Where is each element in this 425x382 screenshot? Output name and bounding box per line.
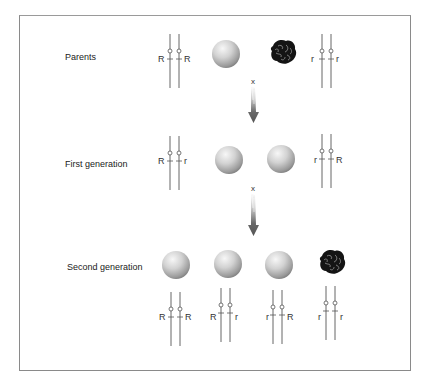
svg-text:r: r xyxy=(314,155,317,165)
f2-chromosomes-rr: r r xyxy=(318,286,343,340)
svg-text:R: R xyxy=(210,312,217,322)
svg-text:R: R xyxy=(158,156,165,166)
svg-text:r: r xyxy=(340,312,343,322)
svg-text:R: R xyxy=(184,54,191,64)
inheritance-diagram: R R r r x R r r R x R R R xyxy=(0,0,425,382)
f1-chromosomes-Rr: R r xyxy=(158,136,187,190)
svg-text:R: R xyxy=(185,312,192,322)
svg-text:R: R xyxy=(159,312,166,322)
wrinkled-seed-icon xyxy=(271,40,296,64)
svg-text:r: r xyxy=(266,312,269,322)
round-seed-icon xyxy=(267,145,295,173)
parent-chromosomes-RR: R R xyxy=(158,34,191,88)
svg-text:R: R xyxy=(287,312,294,322)
arrow-down-icon xyxy=(248,193,259,236)
round-seed-icon xyxy=(214,250,242,278)
svg-text:r: r xyxy=(318,312,321,322)
svg-text:R: R xyxy=(158,54,165,64)
round-seed-icon xyxy=(212,40,240,68)
f2-chromosomes-rR: r R xyxy=(266,290,294,344)
svg-text:R: R xyxy=(336,155,343,165)
f2-chromosomes-Rr: R r xyxy=(210,288,238,342)
round-seed-icon xyxy=(265,251,293,279)
svg-text:r: r xyxy=(336,54,339,64)
cross-symbol: x xyxy=(251,184,255,193)
arrow-down-icon xyxy=(248,86,259,123)
f2-chromosomes-RR: R R xyxy=(159,292,192,346)
parent-chromosomes-rr: r r xyxy=(311,34,339,88)
f1-chromosomes-rR: r R xyxy=(314,134,343,188)
round-seed-icon xyxy=(162,251,190,279)
svg-text:r: r xyxy=(311,54,314,64)
svg-text:r: r xyxy=(235,312,238,322)
svg-text:r: r xyxy=(184,156,187,166)
cross-symbol: x xyxy=(251,77,255,86)
round-seed-icon xyxy=(215,146,243,174)
wrinkled-seed-icon xyxy=(320,250,345,274)
